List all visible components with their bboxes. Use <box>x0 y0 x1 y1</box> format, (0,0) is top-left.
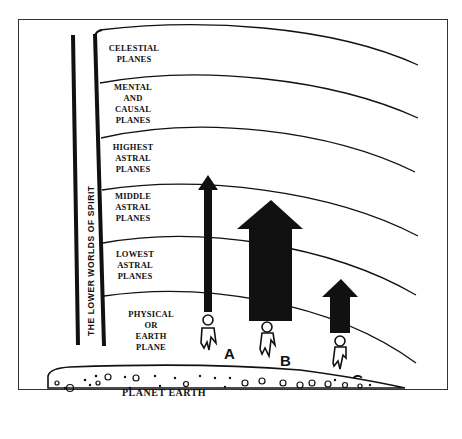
svg-text:PHYSICALOREARTHPLANE: PHYSICALOREARTHPLANE <box>128 309 174 352</box>
svg-text:HIGHESTASTRALPLANES: HIGHESTASTRALPLANES <box>113 142 154 174</box>
figure-label-a: A <box>224 345 235 362</box>
arrow-a <box>198 175 218 312</box>
svg-text:MENTALANDCAUSALPLANES: MENTALANDCAUSALPLANES <box>114 82 152 125</box>
figure-label-b: B <box>280 352 291 369</box>
svg-text:LOWESTASTRALPLANES: LOWESTASTRALPLANES <box>116 249 154 281</box>
person-icon-a <box>201 315 216 350</box>
person-icon-b <box>260 322 275 356</box>
svg-text:MIDDLEASTRALPLANES: MIDDLEASTRALPLANES <box>115 191 151 223</box>
person-icon-c <box>333 336 346 369</box>
figures <box>201 315 346 369</box>
arrow-b <box>237 200 303 321</box>
planet-earth-label: PLANET EARTH <box>122 387 206 398</box>
plane-labels: CELESTIALPLANES MENTALANDCAUSALPLANES HI… <box>109 43 174 352</box>
side-label: THE LOWER WORLDS OF SPIRIT <box>86 185 96 336</box>
arrow-c <box>322 279 358 333</box>
plane-label-celestial: CELESTIALPLANES <box>109 43 160 64</box>
spirit-planes-diagram: THE LOWER WORLDS OF SPIRIT CELESTIALPLAN… <box>0 0 462 439</box>
outer-vertical-bar <box>73 35 78 345</box>
